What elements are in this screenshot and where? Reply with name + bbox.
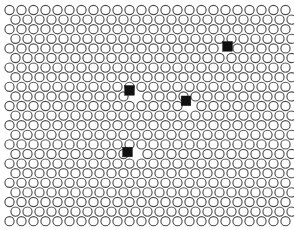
lattice-circle <box>35 34 44 43</box>
lattice-circle <box>287 15 294 24</box>
lattice-circle <box>29 63 38 72</box>
lattice-circle <box>89 197 98 206</box>
lattice-circle <box>179 111 188 120</box>
lattice-circle <box>167 34 176 43</box>
lattice-circle <box>47 34 56 43</box>
lattice-circle <box>203 149 212 158</box>
lattice-circle <box>233 5 242 14</box>
lattice-circle <box>53 5 62 14</box>
lattice-circle <box>137 5 146 14</box>
lattice-circle <box>203 53 212 62</box>
lattice-circle <box>119 15 128 24</box>
lattice-circle <box>89 121 98 130</box>
lattice-circle <box>173 217 182 226</box>
lattice-circle <box>209 178 218 187</box>
lattice-circle <box>77 197 86 206</box>
lattice-circle <box>125 121 134 130</box>
lattice-circle <box>149 159 158 168</box>
lattice-circle <box>29 121 38 130</box>
lattice-circle <box>161 25 170 34</box>
lattice-circle <box>179 73 188 82</box>
lattice-circle <box>125 159 134 168</box>
lattice-circle <box>191 53 200 62</box>
lattice-circle <box>107 15 116 24</box>
lattice-circle <box>11 149 20 158</box>
lattice-circle <box>209 140 218 149</box>
lattice-circle <box>269 159 278 168</box>
lattice-circle <box>119 111 128 120</box>
lattice-circle <box>257 121 266 130</box>
lattice-circle <box>149 82 158 91</box>
lattice-circle <box>233 159 242 168</box>
lattice-circle <box>35 15 44 24</box>
lattice-circle <box>107 34 116 43</box>
lattice-circle <box>53 121 62 130</box>
lattice-circle <box>53 63 62 72</box>
lattice-circle <box>59 53 68 62</box>
lattice-circle <box>137 82 146 91</box>
lattice-circle <box>95 130 104 139</box>
lattice-circle <box>17 217 26 226</box>
lattice-circle <box>263 15 272 24</box>
lattice-circle <box>89 178 98 187</box>
lattice-circle <box>263 53 272 62</box>
lattice-circle <box>83 15 92 24</box>
lattice-circle <box>113 217 122 226</box>
lattice-figure <box>0 0 294 230</box>
lattice-circle <box>209 25 218 34</box>
lattice-circle <box>191 149 200 158</box>
lattice-circle <box>11 130 20 139</box>
lattice-circle <box>65 217 74 226</box>
lattice-circle <box>281 140 290 149</box>
lattice-circle <box>143 149 152 158</box>
lattice-circle <box>185 121 194 130</box>
lattice-circle <box>143 53 152 62</box>
lattice-circle <box>101 178 110 187</box>
lattice-circle <box>275 169 284 178</box>
lattice-circle <box>221 178 230 187</box>
lattice-circle <box>83 149 92 158</box>
lattice-circle <box>107 53 116 62</box>
lattice-circle <box>17 5 26 14</box>
lattice-circle <box>5 5 14 14</box>
lattice-circle <box>71 34 80 43</box>
lattice-circle <box>251 92 260 101</box>
lattice-circle <box>251 130 260 139</box>
lattice-circle <box>41 5 50 14</box>
lattice-circle <box>239 130 248 139</box>
lattice-circle <box>215 92 224 101</box>
lattice-circle <box>239 34 248 43</box>
lattice-circle <box>245 25 254 34</box>
lattice-circle <box>53 25 62 34</box>
lattice-circle <box>101 121 110 130</box>
lattice-circle <box>35 53 44 62</box>
lattice-circle <box>233 121 242 130</box>
lattice-circle <box>287 111 294 120</box>
lattice-circle <box>71 188 80 197</box>
lattice-circle <box>29 82 38 91</box>
lattice-circle <box>59 34 68 43</box>
lattice-circle <box>77 44 86 53</box>
lattice-circle <box>251 15 260 24</box>
lattice-circle <box>29 178 38 187</box>
lattice-circle <box>221 159 230 168</box>
lattice-circle <box>35 92 44 101</box>
lattice-circle <box>47 169 56 178</box>
lattice-circle <box>23 92 32 101</box>
lattice-circle <box>119 207 128 216</box>
lattice-circle <box>149 178 158 187</box>
lattice-circle <box>41 101 50 110</box>
lattice-circle <box>191 73 200 82</box>
lattice-circle <box>101 217 110 226</box>
lattice-circle <box>221 25 230 34</box>
lattice-circle <box>203 34 212 43</box>
lattice-circle <box>77 178 86 187</box>
lattice-circle <box>101 5 110 14</box>
lattice-circle <box>179 188 188 197</box>
lattice-circle <box>245 101 254 110</box>
lattice-circle <box>137 159 146 168</box>
lattice-circle <box>215 188 224 197</box>
lattice-circle <box>5 159 14 168</box>
lattice-circle <box>23 188 32 197</box>
lattice-circle <box>53 101 62 110</box>
